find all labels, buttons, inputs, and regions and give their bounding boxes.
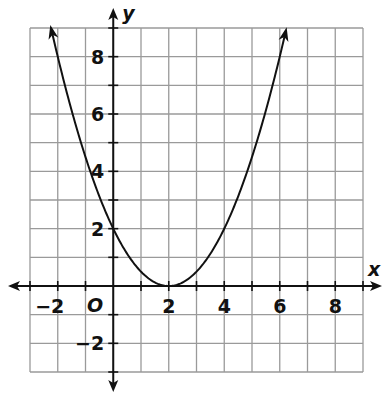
x-tick-label: 2: [162, 295, 175, 317]
grid: [30, 28, 363, 372]
y-tick-label: 8: [91, 46, 104, 68]
x-tick-label: 8: [329, 295, 342, 317]
y-tick-label: 4: [91, 160, 104, 182]
x-tick-label: 4: [218, 295, 231, 317]
x-tick-label: 6: [273, 295, 286, 317]
origin-label: O: [87, 294, 103, 316]
x-tick-label: −2: [35, 295, 64, 317]
y-tick-label: 2: [91, 218, 104, 240]
y-axis-label: y: [122, 2, 136, 24]
tick-labels: −22468−22468Oxy: [35, 2, 381, 354]
parabola-graph: −22468−22468Oxy: [0, 0, 387, 396]
x-axis-label: x: [367, 258, 381, 280]
y-tick-label: −2: [75, 332, 104, 354]
y-tick-label: 6: [91, 103, 104, 125]
